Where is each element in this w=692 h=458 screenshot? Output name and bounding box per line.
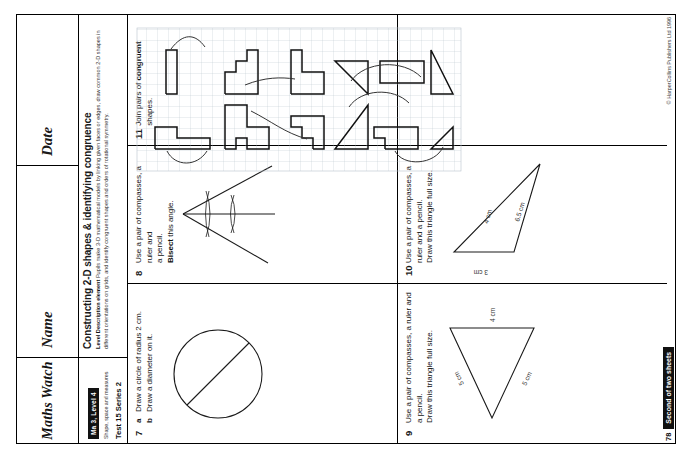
question-7: 7 a Draw a circle of radius 2 cm. b Draw… (128, 283, 397, 443)
question-9-body: Use a pair of compasses, a ruler and a p… (404, 291, 436, 423)
question-9-number: 9 (404, 427, 415, 436)
date-field[interactable]: Date (17, 15, 78, 165)
publisher-logo: Maths Watch (40, 361, 56, 439)
bisect-keyword: Bisect (166, 239, 175, 263)
level-description-lead: Level Description element (95, 280, 101, 349)
question-9: 9 Use a pair of compasses, a ruler and a… (398, 283, 667, 443)
congruence-grid-wrap (135, 23, 653, 173)
question-9-line-1: Use a pair of compasses, a ruler and a p… (404, 291, 425, 423)
meta-left: Ma 3, Level 4 Shape, space and measures … (79, 357, 127, 443)
q9-dim-1: 5 cm (452, 370, 465, 386)
sheet-footer: 78 Second of two sheets © HarperCollins … (661, 15, 676, 443)
date-label: Date (39, 127, 56, 156)
part-a-label: a (134, 416, 145, 423)
question-8-number: 8 (134, 267, 145, 276)
question-8-line-3-rest: this angle. (166, 200, 175, 239)
page-border: Maths Watch Name Date Ma 3, Level 4 Shap… (16, 14, 676, 444)
q9-dim-2: 5 cm (520, 370, 533, 386)
publisher-logo-cell: Maths Watch (17, 357, 78, 443)
question-7-figure (156, 291, 274, 436)
name-label: Name (39, 311, 56, 348)
attainment-target: Shape, space and measures (103, 362, 110, 439)
question-7-number: 7 (134, 427, 145, 436)
question-9-figure: 5 cm 5 cm 4 cm (436, 291, 548, 436)
footer-left: 78 Second of two sheets (663, 347, 674, 441)
worksheet-screen: Maths Watch Name Date Ma 3, Level 4 Shap… (0, 0, 692, 458)
q10-dim-2: 4 cm (482, 208, 493, 224)
level-badge: Ma 3, Level 4 (88, 388, 99, 439)
sheet-sequence-badge: Second of two sheets (663, 347, 674, 429)
question-7-part-b: b Draw a diameter on it. (145, 311, 156, 423)
part-a-text: Draw a circle of radius 2 cm. (134, 311, 145, 412)
q10-dim-1: 3 cm (473, 269, 488, 276)
question-7-part-a: a Draw a circle of radius 2 cm. (134, 311, 145, 423)
part-b-label: b (145, 416, 156, 423)
worksheet-page: Maths Watch Name Date Ma 3, Level 4 Shap… (0, 0, 692, 458)
question-7-head: 7 a Draw a circle of radius 2 cm. b Draw… (134, 291, 156, 436)
circle-diagram (156, 290, 274, 436)
level-description: Level Description element Pupils make 3-… (95, 22, 111, 349)
congruent-shapes-grid (135, 23, 465, 173)
test-series-label: Test 15 Series 2 (114, 362, 123, 439)
copyright-notice: © HarperCollins Publishers Ltd 1996 (666, 17, 672, 104)
meta-strip: Ma 3, Level 4 Shape, space and measures … (79, 15, 128, 443)
sheet-header: Maths Watch Name Date (17, 15, 79, 443)
q9-dim-3: 4 cm (489, 307, 496, 322)
question-9-line-2: Draw this triangle full size. (425, 291, 436, 423)
worksheet-title: Constructing 2-D shapes & identifying co… (82, 22, 93, 349)
meta-right: Constructing 2-D shapes & identifying co… (79, 15, 127, 357)
question-9-head: 9 Use a pair of compasses, a ruler and a… (404, 291, 436, 436)
isosceles-triangle-diagram: 5 cm 5 cm 4 cm (436, 290, 548, 436)
question-10-number: 10 (404, 267, 415, 276)
part-b-text: Draw a diameter on it. (145, 334, 156, 412)
question-7-parts: a Draw a circle of radius 2 cm. b Draw a… (134, 311, 156, 423)
name-field[interactable]: Name (17, 165, 78, 357)
page-number: 78 (664, 433, 673, 441)
